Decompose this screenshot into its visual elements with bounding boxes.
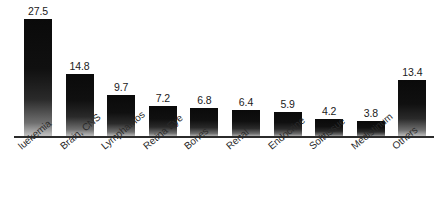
bar-value-label: 6.8 [181, 94, 227, 106]
bar-value-label: 27.5 [15, 5, 61, 17]
bar-value-label: 9.7 [98, 81, 144, 93]
x-axis-label-row: luekemiaBrain, CNSLymphamosRetina EyeBon… [0, 137, 448, 203]
bar-value-label: 13.4 [389, 66, 435, 78]
bar-value-label: 7.2 [140, 92, 186, 104]
bar-value-label: 6.4 [223, 96, 269, 108]
bar-value-label: 14.8 [57, 60, 103, 72]
bar-value-label: 4.2 [306, 105, 352, 117]
bar-chart: 27.514.89.77.26.86.45.94.23.813.4 luekem… [0, 0, 448, 203]
bar-value-label: 5.9 [265, 98, 311, 110]
